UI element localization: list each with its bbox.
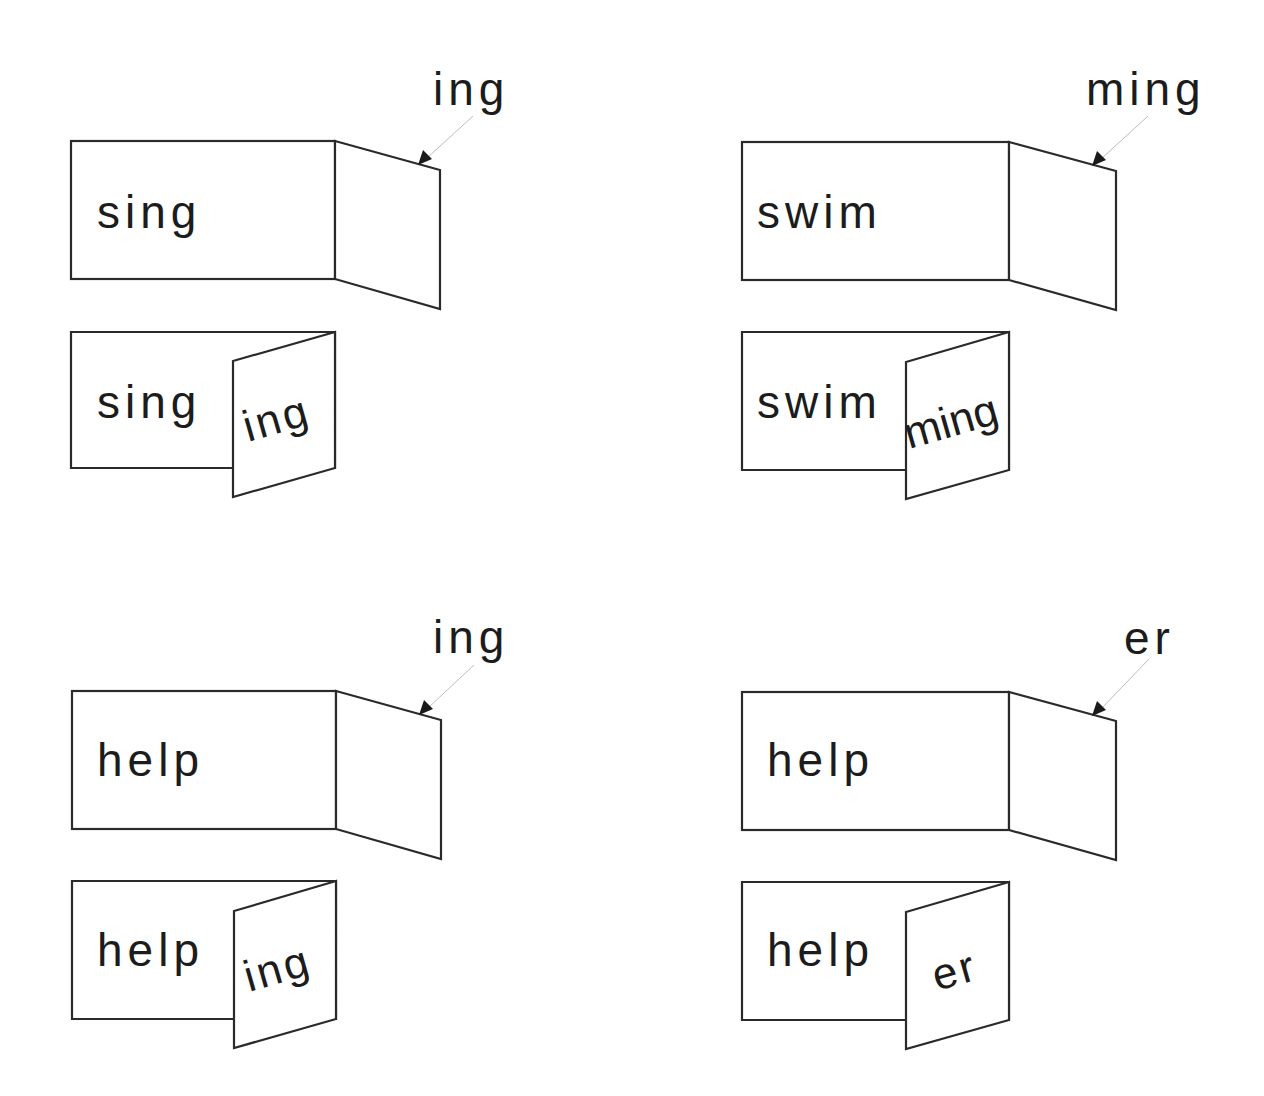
flap-open[interactable]: [1009, 142, 1116, 310]
suffix-label: er: [1124, 612, 1175, 664]
suffix-label: ing: [433, 611, 509, 663]
arrow-icon: [419, 665, 474, 715]
arrow-icon: [418, 116, 473, 165]
open-card: sing ing: [71, 63, 509, 309]
open-card: help ing: [72, 611, 509, 859]
folded-card: help er: [742, 882, 1009, 1049]
base-word: help: [767, 924, 874, 976]
base-word: sing: [97, 376, 201, 428]
flap-open[interactable]: [1009, 692, 1116, 860]
suffix-flap-diagram: sing ing sing ing swim ming: [0, 0, 1264, 1096]
folded-card: help ing: [72, 881, 336, 1048]
suffix-label: ing: [433, 63, 509, 115]
flap-open[interactable]: [335, 141, 440, 309]
base-word: swim: [757, 186, 882, 238]
arrow-icon: [1092, 659, 1149, 716]
base-word: help: [97, 924, 204, 976]
suffix-label: ming: [1086, 63, 1206, 115]
flap-open[interactable]: [336, 691, 441, 859]
base-word: swim: [757, 376, 882, 428]
base-word: sing: [97, 186, 201, 238]
open-card: swim ming: [742, 63, 1206, 310]
arrow-icon: [1092, 116, 1148, 166]
folded-card: swim ming: [742, 332, 1009, 499]
panel-swim-ming: swim ming swim ming: [742, 63, 1206, 499]
panel-sing-ing: sing ing sing ing: [71, 63, 509, 497]
base-word: help: [97, 734, 204, 786]
folded-card: sing ing: [71, 332, 335, 497]
panel-help-ing: help ing help ing: [72, 611, 509, 1048]
open-card: help er: [742, 612, 1175, 860]
base-word: help: [767, 734, 874, 786]
panel-help-er: help er help er: [742, 612, 1175, 1049]
